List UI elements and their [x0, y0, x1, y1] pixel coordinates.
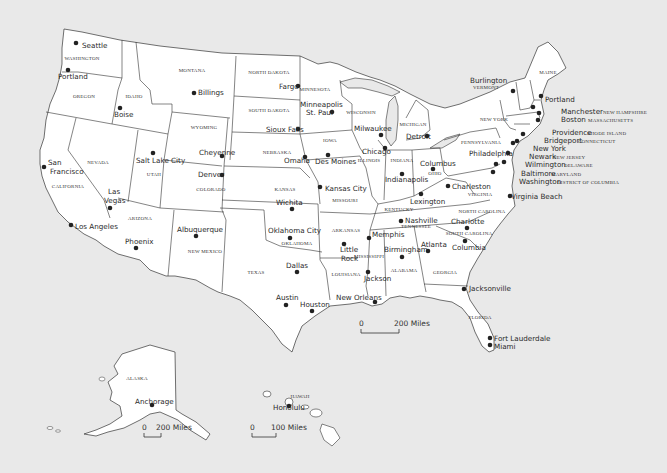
city-label: Boston	[561, 115, 586, 124]
city-marker: Jacksonville	[462, 284, 512, 293]
city-dot-icon	[488, 343, 493, 348]
city-dot-icon	[284, 303, 289, 308]
state-label: HAWAII	[290, 394, 309, 399]
city-label: Chicago	[362, 147, 391, 156]
city-dot-icon	[494, 162, 499, 167]
scale-start-label: 0	[142, 423, 147, 432]
city-label: Kansas City	[325, 184, 368, 193]
city-label: Jacksonville	[468, 284, 512, 293]
city-label: Denver	[198, 170, 224, 179]
city-label: St. Paul	[306, 108, 333, 117]
state-label: NORTH DAKOTA	[248, 70, 289, 75]
state-tag-label: RHODE ISLAND	[587, 131, 626, 136]
state-label: SOUTH CAROLINA	[446, 231, 493, 236]
city-label: Boise	[114, 110, 134, 119]
city-dot-icon	[151, 151, 156, 156]
state-tag-label: DELAWARE	[564, 163, 593, 168]
city-label: Washington	[519, 177, 561, 186]
state-label: UTAH	[147, 172, 161, 177]
city-dot-icon	[537, 111, 542, 116]
city-label: Portland	[545, 95, 575, 104]
scale-end-label: 100 Miles	[271, 423, 307, 432]
state-label: OHIO	[428, 171, 441, 176]
city-label: Phoenix	[125, 237, 154, 246]
city-marker: Chicago	[362, 146, 391, 156]
city-label: Detroit	[406, 132, 431, 141]
city-dot-icon	[488, 336, 493, 341]
city-dot-icon	[531, 105, 536, 110]
state-label: NORTH CAROLINA	[459, 209, 506, 214]
scale-start-label: 0	[359, 319, 364, 328]
city-marker: Detroit	[406, 132, 431, 141]
city-label: Miami	[494, 342, 516, 351]
state-label: NEW YORK	[480, 117, 508, 122]
city-dot-icon	[511, 89, 516, 94]
city-dot-icon	[515, 139, 520, 144]
state-label: LOUISIANA	[331, 272, 360, 277]
state-label: CALIFORNIA	[52, 184, 84, 189]
city-label: Dallas	[286, 261, 308, 270]
city-marker: Omaha	[284, 155, 310, 165]
city-marker: Philadelphia	[469, 149, 513, 158]
city-label: Francisco	[50, 167, 84, 176]
city-label: Oklahoma City	[268, 226, 322, 235]
city-label: Philadelphia	[469, 149, 513, 158]
city-label: Albuquerque	[177, 225, 224, 234]
city-marker: Francisco	[50, 167, 84, 176]
city-label: Nashville	[405, 216, 438, 225]
city-label: Austin	[276, 293, 299, 302]
city-label: Charleston	[452, 182, 491, 191]
city-marker: Fargo	[279, 82, 300, 91]
city-marker: Virginia Beach	[508, 192, 563, 201]
city-marker: Los Angeles	[69, 222, 118, 231]
city-label: Charlotte	[451, 217, 485, 226]
city-dot-icon	[134, 246, 139, 251]
city-marker: Las	[108, 187, 120, 196]
city-dot-icon	[399, 219, 404, 224]
state-label: TEXAS	[247, 270, 264, 275]
state-tag-label: VERMONT	[473, 85, 499, 90]
state-tag-label: CONNECTICUT	[578, 139, 615, 144]
city-dot-icon	[42, 165, 47, 170]
city-dot-icon	[426, 249, 431, 254]
city-label: Memphis	[372, 230, 405, 239]
city-dot-icon	[194, 234, 199, 239]
state-label: NEBRASKA	[263, 150, 292, 155]
state-label: ALASKA	[126, 376, 148, 381]
state-label: WISCONSIN	[346, 110, 376, 115]
city-label: Salt Lake City	[136, 156, 186, 165]
state-label: WYOMING	[191, 125, 218, 130]
city-dot-icon	[521, 132, 526, 137]
state-label: IDAHO	[125, 94, 142, 99]
city-dot-icon	[462, 287, 467, 292]
city-marker: Charleston	[446, 182, 491, 191]
state-label: GEORGIA	[433, 270, 457, 275]
city-label: Columbia	[452, 243, 486, 252]
city-label: Wilmington	[525, 160, 566, 169]
city-marker: Denver	[198, 170, 224, 179]
state-label: NEVADA	[87, 160, 109, 165]
state-label: FLORIDA	[468, 315, 491, 320]
scale-end-label: 200 Miles	[394, 319, 430, 328]
state-label: MICHIGAN	[399, 122, 426, 127]
state-label: MAINE	[539, 70, 556, 75]
city-label: Milwaukee	[354, 124, 392, 133]
city-dot-icon	[192, 91, 197, 96]
city-dot-icon	[502, 160, 507, 165]
city-marker: Rock	[341, 254, 359, 263]
city-dot-icon	[446, 184, 451, 189]
state-label: MONTANA	[179, 68, 206, 73]
city-marker: Anchorage	[135, 397, 174, 407]
state-label: ARKANSAS	[332, 228, 361, 233]
city-label: San	[48, 158, 62, 167]
scale-start-label: 0	[250, 423, 255, 432]
state-label: ARIZONA	[128, 216, 152, 221]
city-marker: Portland	[539, 94, 575, 104]
city-label: Atlanta	[421, 240, 447, 249]
city-label: Fargo	[279, 82, 299, 91]
city-label: Burlington	[470, 76, 507, 85]
city-marker: Kansas City	[318, 184, 368, 193]
city-marker: St. Paul	[306, 108, 334, 117]
city-label: New Orleans	[336, 293, 382, 302]
city-marker: Nashville	[399, 216, 439, 225]
